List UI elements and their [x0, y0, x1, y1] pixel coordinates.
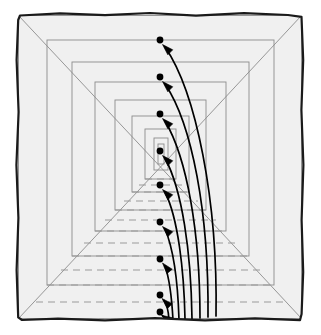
figure-root — [0, 0, 321, 335]
target-dot-1 — [157, 37, 164, 44]
target-dot-8 — [157, 292, 164, 299]
target-dot-2 — [157, 74, 164, 81]
target-dot-5 — [157, 182, 164, 189]
target-dot-3 — [157, 111, 164, 118]
perspective-corridor-figure — [0, 0, 321, 335]
target-dot-9 — [157, 309, 164, 316]
target-dot-6 — [157, 219, 164, 226]
target-dot-4 — [157, 148, 164, 155]
target-dot-7 — [157, 256, 164, 263]
